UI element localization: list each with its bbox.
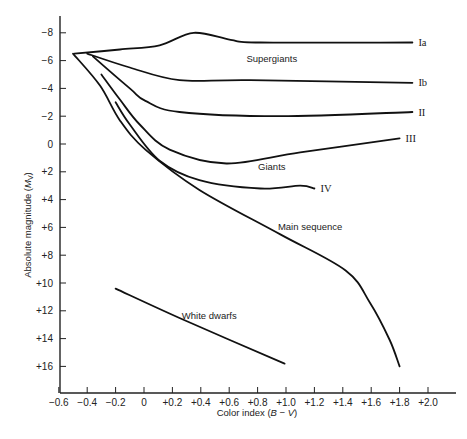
annotation-giants: Giants — [258, 161, 286, 172]
hr-diagram-chart: −8−6−4−20+2+4+6+8+10+12+14+16 −0.6−0.4−0… — [0, 0, 467, 439]
class-label-iii: III — [406, 133, 417, 144]
x-ticks: −0.6−0.4−0.20+0.2+0.4+0.6+0.8+1.0+1.2+1.… — [49, 387, 438, 408]
y-ticks: −8−6−4−20+2+4+6+8+10+12+14+16 — [36, 27, 66, 372]
annotation-main-sequence: Main sequence — [278, 221, 342, 232]
y-tick-label: 0 — [47, 139, 53, 150]
class-label-iv: IV — [320, 183, 331, 194]
y-tick-label: +8 — [42, 250, 54, 261]
x-tick-label: +0.4 — [191, 397, 211, 408]
y-tick-label: −4 — [42, 83, 54, 94]
y-axis-title: Absolute magnitude (MV) — [22, 172, 34, 278]
y-tick-label: +6 — [42, 222, 54, 233]
curve-ia — [74, 33, 412, 54]
y-tick-label: −2 — [42, 111, 54, 122]
y-tick-label: −6 — [42, 55, 54, 66]
x-tick-label: +1.8 — [390, 397, 410, 408]
x-tick-label: 0 — [141, 397, 147, 408]
x-tick-label: +1.6 — [361, 397, 381, 408]
curves — [73, 33, 412, 367]
curve-white-dwarfs — [116, 289, 285, 364]
x-tick-label: −0.4 — [77, 397, 97, 408]
x-tick-label: +0.2 — [163, 397, 183, 408]
x-tick-label: −0.2 — [106, 397, 126, 408]
x-tick-label: +2.0 — [418, 397, 438, 408]
x-axis-title: Color index (B − V) — [217, 407, 298, 418]
y-tick-label: −8 — [42, 27, 54, 38]
x-tick-label: +1.4 — [333, 397, 353, 408]
class-label-ib: Ib — [418, 77, 427, 88]
annotation-supergiants: Supergiants — [246, 53, 297, 64]
class-label-ia: Ia — [418, 37, 426, 48]
annotation-white-dwarfs: White dwarfs — [182, 310, 237, 321]
curve-ii — [93, 56, 413, 116]
x-tick-label: −0.6 — [49, 397, 69, 408]
y-tick-label: +16 — [36, 361, 53, 372]
region-annotations: SupergiantsGiantsMain sequenceWhite dwar… — [182, 53, 342, 321]
y-tick-label: +14 — [36, 333, 53, 344]
y-tick-label: +2 — [42, 166, 54, 177]
x-tick-label: +1.2 — [305, 397, 325, 408]
y-tick-label: +4 — [42, 194, 54, 205]
class-label-ii: II — [418, 107, 425, 118]
y-tick-label: +10 — [36, 278, 53, 289]
y-tick-label: +12 — [36, 305, 53, 316]
